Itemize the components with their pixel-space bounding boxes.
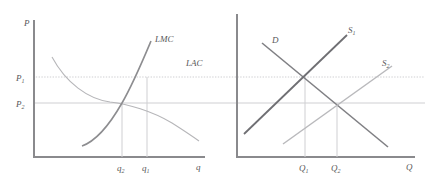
Q2-tick-label: Q2 <box>331 163 341 174</box>
market-x-axis-label: Q <box>406 162 413 172</box>
p2-tick-label: P2 <box>15 99 25 110</box>
lmc-curve <box>82 41 151 146</box>
firm-x-axis-label: q <box>196 162 201 172</box>
lac-curve <box>52 57 199 141</box>
demand-curve <box>262 43 388 147</box>
firm-y-axis-label: P <box>23 18 30 28</box>
market-panel: Q D S1 S2 Q1 Q2 <box>237 14 415 174</box>
supply1-label: S1 <box>348 25 356 36</box>
q1-tick-label: q1 <box>142 163 150 174</box>
diagram-canvas: P q LMC LAC P1 P2 q2 q1 Q D S1 S2 Q1 Q2 <box>0 0 435 188</box>
lmc-label: LMC <box>154 34 175 44</box>
firm-panel: P q LMC LAC P1 P2 q2 q1 <box>15 18 205 174</box>
lac-label: LAC <box>185 58 204 68</box>
Q1-tick-label: Q1 <box>299 163 309 174</box>
p1-tick-label: P1 <box>15 73 25 84</box>
economics-diagram: P q LMC LAC P1 P2 q2 q1 Q D S1 S2 Q1 Q2 <box>0 0 435 188</box>
q2-tick-label: q2 <box>117 163 125 174</box>
supply2-label: S2 <box>382 58 390 69</box>
demand-label: D <box>271 35 279 45</box>
price-gridlines <box>33 77 425 103</box>
supply1-curve <box>244 35 347 134</box>
